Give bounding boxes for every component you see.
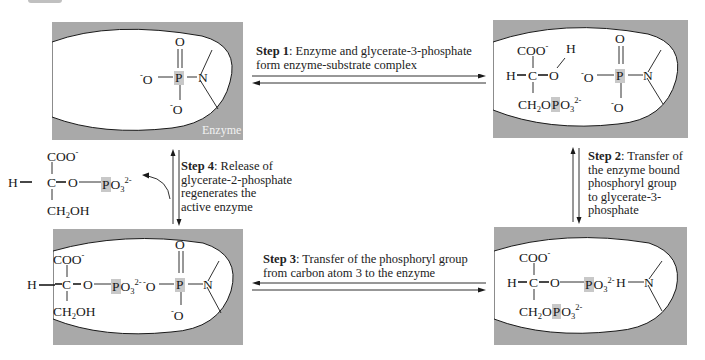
atom-o: O [550, 276, 560, 290]
atom-c2: C [528, 69, 537, 83]
step-2-caption: Step 2: Transfer of the enzyme bound pho… [588, 150, 705, 218]
atom-n-histidine: N [644, 276, 654, 290]
atom-n-histidine: N [643, 69, 653, 83]
atom-c2: C [47, 176, 56, 190]
step-1-caption: Step 1: Enzyme and glycerate-3-phosphate… [256, 45, 486, 72]
atom-h: H [8, 176, 18, 190]
h-c-bond [39, 281, 55, 289]
atom-h-hydroxyl: H [566, 42, 576, 56]
step-3-equilibrium-arrows [250, 281, 490, 295]
atom-n-histidine: N [203, 278, 213, 292]
atom-o-minus-bottom: -O [171, 307, 184, 323]
group-po3-c2: PO32- [584, 276, 615, 294]
group-carboxylate: COO- [47, 148, 78, 164]
panel-enzyme-substrate-complex: COO- H H C O CH2OPO32- O -O P N -O [493, 20, 688, 138]
atom-o-double: O [615, 32, 625, 46]
atom-c2: C [529, 276, 538, 290]
atom-o-hydroxyl: O [549, 69, 559, 83]
panel-bisphosphate-intermediate: COO- H C O PO32- CH2OPO32- H N [494, 227, 687, 345]
group-carboxylate: COO- [517, 42, 548, 58]
top-tab-artifact [28, 0, 62, 3]
enzyme-label: Enzyme [202, 123, 241, 138]
group-po3: PO32- [111, 278, 142, 296]
atom-n-histidine: N [198, 71, 208, 85]
group-ch2opo3: CH2OPO32- [518, 96, 581, 114]
atom-h: H [506, 69, 516, 83]
atom-o-double: O [175, 238, 185, 252]
group-ch2opo3: CH2OPO32- [519, 303, 582, 321]
group-ch2oh: CH2OH [47, 204, 90, 220]
atom-o-minus-left: -O [140, 71, 153, 87]
atom-h-on-n: H [616, 276, 626, 290]
atom-o-minus-bottom: -O [611, 99, 624, 115]
atom-phosphorus-highlighted: P [175, 278, 185, 292]
step-2-equilibrium-arrows [570, 146, 582, 226]
atom-o-minus-left: -O [581, 69, 594, 85]
atom-phosphorus-highlighted: P [615, 69, 625, 83]
group-ch2oh: CH2OH [53, 305, 96, 321]
atom-o: O [83, 278, 93, 292]
atom-h: H [507, 276, 517, 290]
panel-phosphoenzyme-product-complex: COO- C O PO32- CH2OH O -O P N -O [53, 229, 243, 345]
atom-o-minus-left: -O [143, 278, 156, 294]
release-curved-arrow [138, 170, 174, 200]
group-carboxylate: COO- [53, 251, 84, 267]
atom-c2: C [62, 278, 71, 292]
atom-o-minus-bottom: -O [170, 101, 183, 117]
product-glycerate-2-phosphate: COO- H C O PO32- CH2OH [0, 148, 140, 220]
atom-h-outside: H [27, 278, 37, 292]
step-1-equilibrium-arrows [250, 74, 490, 88]
group-po3: PO32- [101, 176, 132, 194]
step-4-caption: Step 4: Release of glycerate-2-phosphate… [181, 160, 306, 214]
atom-phosphorus-highlighted: P [174, 71, 184, 85]
group-carboxylate: COO- [519, 249, 550, 265]
panel-enzyme-free: O -O P N -O Enzyme [52, 22, 243, 140]
step-3-caption: Step 3: Transfer of the phosphoryl group… [263, 253, 493, 280]
atom-o-double: O [175, 35, 185, 49]
atom-o: O [68, 176, 78, 190]
